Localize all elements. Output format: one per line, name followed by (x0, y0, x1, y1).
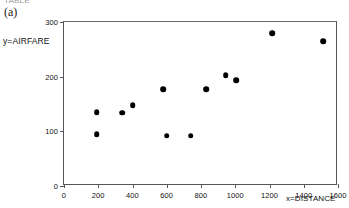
data-point (188, 133, 194, 139)
x-tick-label: 1200 (255, 191, 285, 200)
x-tick-mark (64, 184, 65, 188)
data-point (164, 133, 170, 139)
x-tick-mark (167, 184, 168, 188)
x-tick-mark (98, 184, 99, 188)
data-point (160, 86, 166, 92)
x-tick-label: 1400 (289, 191, 319, 200)
x-tick-label: 1600 (323, 191, 349, 200)
x-tick-mark (304, 184, 305, 188)
y-tick-label: 0 (32, 182, 58, 191)
scatter-plot-area: 0100200300 02004006008001000120014001600 (63, 21, 337, 185)
data-point (269, 30, 275, 36)
data-point (130, 102, 136, 108)
x-tick-mark (133, 184, 134, 188)
data-point-layer (64, 22, 336, 184)
data-point (203, 86, 209, 92)
data-point (94, 131, 100, 137)
y-tick-label: 200 (32, 72, 58, 81)
x-tick-mark (338, 184, 339, 188)
data-point (233, 77, 239, 83)
x-tick-label: 800 (186, 191, 216, 200)
x-tick-mark (201, 184, 202, 188)
panel-label: (a) (4, 5, 17, 20)
data-point (119, 110, 125, 116)
x-tick-label: 400 (118, 191, 148, 200)
x-tick-label: 1000 (220, 191, 250, 200)
x-tick-mark (235, 184, 236, 188)
x-tick-label: 0 (49, 191, 79, 200)
data-point (223, 72, 229, 78)
x-tick-label: 200 (83, 191, 113, 200)
y-axis-label: y=AIRFARE (3, 36, 49, 46)
x-tick-label: 600 (152, 191, 182, 200)
x-tick-mark (270, 184, 271, 188)
y-tick-label: 300 (32, 18, 58, 27)
data-point (320, 38, 326, 44)
data-point (94, 109, 100, 115)
y-tick-label: 100 (32, 127, 58, 136)
